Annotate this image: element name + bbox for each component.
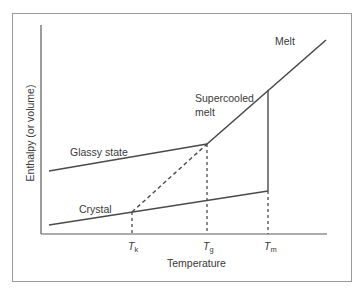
tick-tg: Tg <box>203 240 214 256</box>
plot-area <box>0 0 364 297</box>
x-axis-label: Temperature <box>167 257 226 269</box>
y-axis-label: Enthalpy (or volume) <box>24 85 36 182</box>
supercooled-melt-label: melt <box>195 106 215 118</box>
melt-label: Melt <box>275 35 295 47</box>
tick-tm: Tm <box>264 240 277 256</box>
crystal-label: Crystal <box>79 203 112 215</box>
glassy-state-label: Glassy state <box>70 146 128 158</box>
tick-tk: Tk <box>128 240 138 256</box>
supercooled-label: Supercooled <box>195 92 254 104</box>
